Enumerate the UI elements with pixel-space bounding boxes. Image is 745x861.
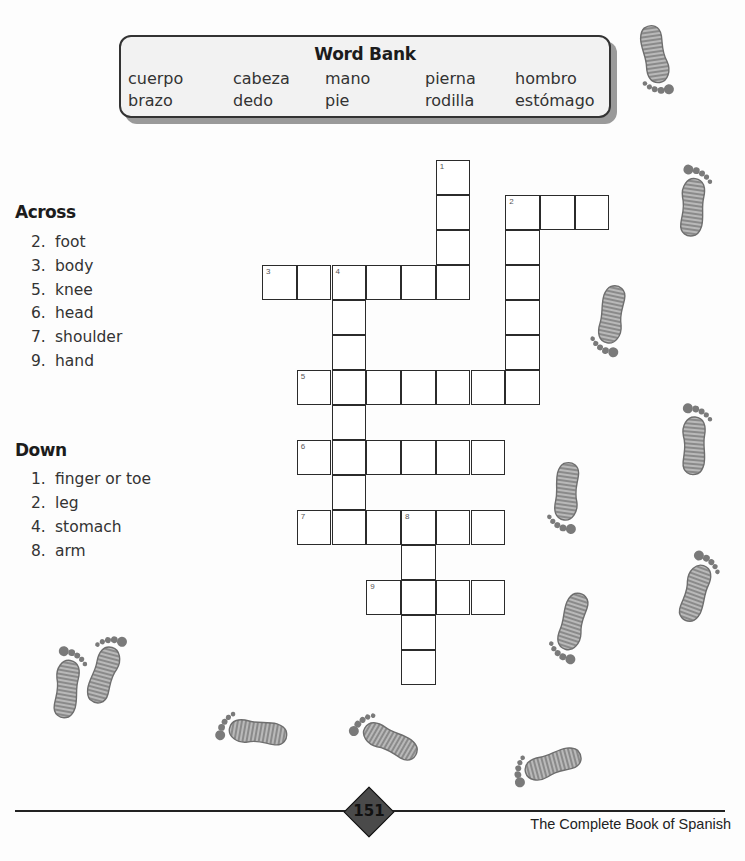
crossword-cell[interactable]: 5: [297, 370, 332, 405]
footprint-icon: [550, 590, 595, 680]
crossword-cell[interactable]: 2: [505, 195, 540, 230]
word-bank-word: brazo: [128, 92, 173, 110]
word-bank-word: rodilla: [425, 92, 474, 110]
crossword-cell[interactable]: [436, 510, 471, 545]
crossword-cell[interactable]: [436, 230, 471, 265]
clue-number: 8.: [31, 542, 55, 560]
crossword-cell[interactable]: [436, 440, 471, 475]
clue-text: leg: [55, 494, 79, 512]
footprint-icon: [655, 553, 705, 633]
down-clue: 8.arm: [31, 542, 86, 560]
cell-number: 2: [509, 198, 513, 206]
footprint-icon: [30, 628, 80, 723]
crossword-cell[interactable]: [471, 370, 506, 405]
crossword-cell[interactable]: [540, 195, 575, 230]
crossword-cell[interactable]: 4: [332, 265, 367, 300]
crossword-cell[interactable]: [505, 335, 540, 370]
crossword-cell[interactable]: [505, 370, 540, 405]
crossword-cell[interactable]: [332, 370, 367, 405]
across-clue: 5.knee: [31, 281, 93, 299]
crossword-cell[interactable]: [366, 370, 401, 405]
cell-number: 6: [301, 443, 305, 451]
clue-number: 7.: [31, 328, 55, 346]
crossword-cell[interactable]: [575, 195, 610, 230]
clue-number: 9.: [31, 352, 55, 370]
word-bank-word: cuerpo: [128, 70, 183, 88]
cell-number: 5: [301, 373, 305, 381]
crossword-cell[interactable]: [436, 580, 471, 615]
crossword-cell[interactable]: [366, 440, 401, 475]
across-clue: 6.head: [31, 304, 94, 322]
word-bank-word: mano: [325, 70, 370, 88]
footprint-icon: [85, 612, 135, 707]
crossword-cell[interactable]: [332, 300, 367, 335]
clue-number: 4.: [31, 518, 55, 536]
crossword-cell[interactable]: [436, 195, 471, 230]
cell-number: 9: [370, 583, 374, 591]
footprint-icon: [548, 462, 588, 542]
crossword-cell[interactable]: [401, 650, 436, 685]
page-number: 151: [348, 802, 390, 820]
word-bank-word: estómago: [515, 92, 595, 110]
book-title: The Complete Book of Spanish: [530, 816, 731, 832]
clue-text: knee: [55, 281, 93, 299]
crossword-cell[interactable]: [401, 545, 436, 580]
footprint-icon: [640, 25, 680, 105]
clue-number: 3.: [31, 257, 55, 275]
crossword-cell[interactable]: [332, 475, 367, 510]
crossword-cell[interactable]: [332, 405, 367, 440]
crossword-cell[interactable]: [366, 265, 401, 300]
crossword-cell[interactable]: [471, 510, 506, 545]
cell-number: 3: [266, 268, 270, 276]
clue-number: 2.: [31, 233, 55, 251]
across-clue: 2.foot: [31, 233, 86, 251]
crossword-cell[interactable]: [505, 265, 540, 300]
crossword-cell[interactable]: [332, 510, 367, 545]
word-bank: Word Bank cuerpo cabeza mano pierna homb…: [119, 35, 611, 118]
down-clue: 1.finger or toe: [31, 470, 151, 488]
crossword-cell[interactable]: [471, 440, 506, 475]
crossword-cell[interactable]: [401, 370, 436, 405]
clue-text: finger or toe: [55, 470, 151, 488]
crossword-cell[interactable]: [436, 265, 471, 300]
crossword-cell[interactable]: [366, 510, 401, 545]
across-heading: Across: [15, 202, 76, 222]
crossword-cell[interactable]: [401, 440, 436, 475]
crossword-cell[interactable]: 6: [297, 440, 332, 475]
footprint-icon: [340, 695, 430, 765]
crossword-cell[interactable]: 3: [262, 265, 297, 300]
cell-number: 1: [440, 163, 444, 171]
crossword-cell[interactable]: [436, 370, 471, 405]
cell-number: 4: [336, 268, 340, 276]
clue-text: arm: [55, 542, 86, 560]
crossword-cell[interactable]: 7: [297, 510, 332, 545]
down-clue: 2.leg: [31, 494, 79, 512]
clue-number: 2.: [31, 494, 55, 512]
down-clue: 4.stomach: [31, 518, 122, 536]
crossword-cell[interactable]: [505, 300, 540, 335]
word-bank-word: hombro: [515, 70, 577, 88]
crossword-cell[interactable]: 9: [366, 580, 401, 615]
cell-number: 8: [405, 513, 409, 521]
crossword-cell[interactable]: [401, 580, 436, 615]
crossword-cell[interactable]: [332, 440, 367, 475]
crossword-cell[interactable]: [401, 265, 436, 300]
across-clue: 3.body: [31, 257, 93, 275]
footprint-icon: [668, 398, 708, 478]
cell-number: 7: [301, 513, 305, 521]
crossword-cell[interactable]: [332, 335, 367, 370]
crossword-cell[interactable]: [297, 265, 332, 300]
crossword-cell[interactable]: 8: [401, 510, 436, 545]
clue-text: stomach: [55, 518, 122, 536]
word-bank-word: dedo: [233, 92, 273, 110]
crossword-cell[interactable]: 1: [436, 160, 471, 195]
clue-text: body: [55, 257, 93, 275]
footprint-icon: [512, 738, 582, 800]
clue-text: head: [55, 304, 94, 322]
clue-number: 5.: [31, 281, 55, 299]
across-clue: 9.hand: [31, 352, 94, 370]
crossword-cell[interactable]: [471, 580, 506, 615]
crossword-cell[interactable]: [505, 230, 540, 265]
clue-number: 6.: [31, 304, 55, 322]
crossword-cell[interactable]: [401, 615, 436, 650]
